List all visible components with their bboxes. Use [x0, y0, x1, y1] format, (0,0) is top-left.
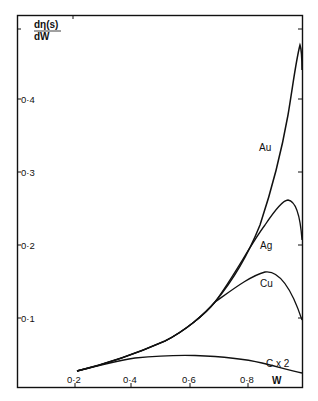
y-axis-ticks-right [298, 29, 302, 318]
curve-au [77, 45, 302, 371]
y-tick-label-0-2: 0·2 [21, 240, 35, 251]
curve-label-au: Au [259, 142, 271, 153]
curve-label-cu: Cu [260, 278, 273, 289]
y-tick-label-0-1: 0·1 [21, 313, 35, 324]
y-tick-label-0-4: 0·4 [21, 94, 35, 105]
curve-label-ag: Ag [260, 240, 272, 251]
curve-label-c-x2: C x 2 [266, 358, 290, 369]
chart-figure: dη(s) dW 0·4 0·3 0·2 0·1 0·2 0·4 0·6 0·8… [0, 0, 318, 401]
x-axis-ticks [75, 383, 248, 387]
x-tick-label-0-2: 0·2 [67, 374, 81, 385]
y-axis-label-denominator: dW [34, 31, 50, 42]
y-axis-label-numerator: dη(s) [34, 19, 58, 30]
y-tick-label-0-3: 0·3 [21, 167, 35, 178]
x-tick-label-0-6: 0·6 [182, 374, 196, 385]
x-tick-label-0-8: 0·8 [240, 374, 254, 385]
x-tick-label-0-4: 0·4 [123, 374, 137, 385]
x-axis-label: W [272, 375, 282, 386]
plot-frame [18, 16, 303, 388]
